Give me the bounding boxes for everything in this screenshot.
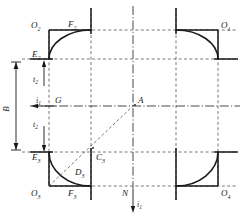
diagonal-o3-to-a xyxy=(49,104,135,186)
label-n: N xyxy=(121,188,129,198)
label-f3-sub: 3 xyxy=(73,194,77,200)
label-t2-upper: t2 xyxy=(33,75,38,85)
label-o2: O2 xyxy=(31,20,41,32)
point-marker-c3 xyxy=(92,147,94,149)
arc-top-left xyxy=(49,30,91,59)
label-o1-sub: 1 xyxy=(228,26,231,32)
label-a: A xyxy=(137,95,144,105)
label-b: B xyxy=(1,106,11,112)
arrow-t2-upper xyxy=(42,60,46,86)
arc-bottom-left xyxy=(49,152,91,186)
label-t2-upper-sub: 2 xyxy=(35,79,38,85)
dimension-b-arrowhead-bottom xyxy=(14,143,19,150)
dimension-b-arrowhead-top xyxy=(14,62,19,69)
label-e3: E3 xyxy=(31,152,41,164)
label-o1: O1 xyxy=(221,20,231,32)
arc-top-right xyxy=(176,30,218,59)
centerlines xyxy=(30,6,240,192)
dimension-b xyxy=(11,62,21,150)
figure-root: O2 F2 O1 E2 B t2 t2 i1 G A xyxy=(0,0,243,218)
label-c3: C3 xyxy=(96,152,105,164)
label-c3-sub: 3 xyxy=(101,158,105,164)
label-t2-lower-sub: 2 xyxy=(35,124,38,130)
arrow-t2-lower xyxy=(42,126,46,152)
label-o2-sub: 2 xyxy=(38,26,41,32)
label-e2-sub: 2 xyxy=(38,55,41,61)
geometry-diagram: O2 F2 O1 E2 B t2 t2 i1 G A xyxy=(0,0,243,218)
point-marker-a xyxy=(134,104,136,106)
label-f3: F3 xyxy=(67,188,77,200)
label-i1-bottom-sub: 1 xyxy=(139,204,142,210)
label-i1-left-sub: 1 xyxy=(38,100,41,106)
label-o3-sub: 3 xyxy=(37,194,41,200)
label-t2-lower: t2 xyxy=(33,120,38,130)
label-f2-sub: 2 xyxy=(74,25,77,31)
label-g: G xyxy=(55,95,62,105)
label-f2: F2 xyxy=(67,19,77,31)
point-markers xyxy=(92,104,136,149)
label-i1-bottom: i1 xyxy=(137,200,142,210)
arrow-t2-lower-head xyxy=(42,145,46,152)
label-o3: O3 xyxy=(31,188,41,200)
diagonal-construction-line xyxy=(49,104,135,186)
arc-bottom-right xyxy=(176,152,218,186)
arrow-i1-bottom xyxy=(131,190,135,213)
label-e2: E2 xyxy=(31,49,41,61)
label-i1-left: i1 xyxy=(36,96,41,106)
label-o4-sub: 4 xyxy=(228,194,231,200)
arrow-i1-bottom-head xyxy=(131,206,135,213)
corner-arcs xyxy=(49,30,218,186)
label-d3: D3 xyxy=(74,167,85,179)
arrow-i1-left xyxy=(31,104,56,108)
label-o4: O4 xyxy=(221,188,231,200)
arrow-t2-upper-head xyxy=(42,60,46,67)
label-e3-sub: 3 xyxy=(37,158,41,164)
label-d3-sub: 3 xyxy=(81,173,85,179)
